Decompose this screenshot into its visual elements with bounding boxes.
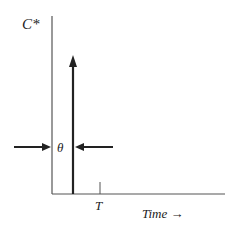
spike-arrowhead-icon xyxy=(69,55,77,67)
x-axis-label: Time → xyxy=(142,206,184,221)
y-axis-label: C* xyxy=(22,16,40,32)
t-tick-label: T xyxy=(95,198,103,213)
impulse-diagram: C* θ T Time → xyxy=(0,0,236,229)
left-pointing-arrowhead-icon xyxy=(75,143,84,151)
diagram-canvas: C* θ T Time → xyxy=(0,0,236,229)
right-pointing-arrowhead-icon xyxy=(42,143,51,151)
theta-label: θ xyxy=(57,140,64,155)
